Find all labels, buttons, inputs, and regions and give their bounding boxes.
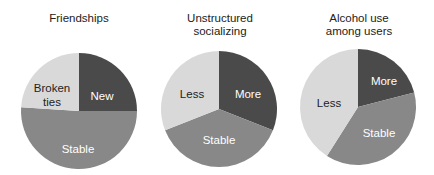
pie-svg: More Stable Less (145, 0, 295, 175)
pie-slices (161, 51, 277, 167)
slice-label-more: More (371, 75, 397, 87)
pie-slice (21, 107, 137, 169)
slice-label-stable: Stable (363, 127, 396, 139)
slice-label-more: More (235, 88, 261, 100)
slice-label-new: New (90, 90, 114, 102)
slice-label-stable: Stable (62, 143, 95, 155)
pie-chart-alcohol-use: Alcohol use among users More Stable Less (284, 0, 434, 175)
pie-chart-friendships: Friendships New Stable Broken ties (0, 0, 150, 175)
pie-svg: More Stable Less (284, 0, 434, 175)
pie-slice (79, 53, 137, 111)
pie-chart-unstructured-socializing: Unstructured socializing More Stable Les… (145, 0, 295, 175)
slice-label-broken-ties-2: ties (43, 96, 61, 108)
slice-label-less: Less (317, 97, 342, 109)
slice-label-less: Less (180, 88, 205, 100)
slice-label-broken-ties: Broken (34, 82, 70, 94)
pie-svg: New Stable Broken ties (0, 0, 150, 175)
slice-label-stable: Stable (203, 134, 236, 146)
